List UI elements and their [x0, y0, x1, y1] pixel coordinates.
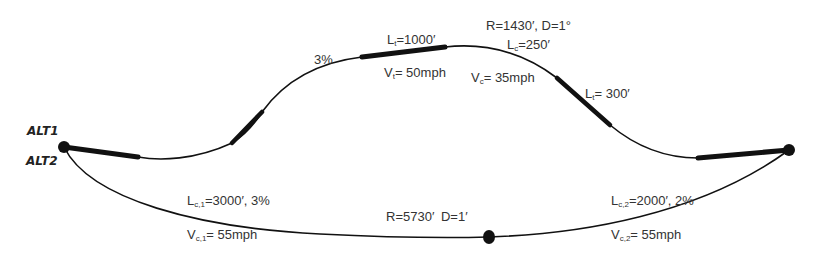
alt1-path: [64, 46, 789, 159]
alt2-curve1-length-label: Lc,1=3000′, 3%: [187, 194, 270, 209]
alt2-curve2-length-label: Lc,2=2000′, 2%: [611, 194, 694, 209]
alt1-tangent-2: [232, 112, 262, 143]
alt1-tangent-5: [698, 150, 789, 158]
alt1-grade-label: 3%: [314, 53, 333, 66]
alt2-curve1-speed-label: Vc,1= 55mph: [187, 228, 257, 243]
alt2-curve2-speed-label: Vc,2= 55mph: [611, 228, 681, 243]
alt2-mid-node: [483, 230, 495, 244]
alt1-curve-params-label: R=1430′, D=1°: [486, 19, 571, 32]
alt1-curve-length-label: Lc=250′: [507, 38, 550, 53]
alt1-label: ALT1: [27, 124, 58, 138]
end-node: [783, 144, 795, 156]
alt1-curve-speed-label: Vc= 35mph: [471, 71, 535, 86]
alt2-label: ALT2: [26, 154, 57, 168]
alt1-tangent-1: [64, 147, 138, 157]
alt1-tangent-length-label: Lt=1000′: [387, 33, 435, 48]
alt2-curve-params-label: R=5730′ D=1′: [386, 210, 468, 223]
alt1-tangent-3: [362, 47, 445, 57]
alt1-tangent2-length-label: Lt= 300′: [585, 87, 630, 102]
start-node: [58, 141, 70, 153]
alt1-tangent-speed-label: Vt= 50mph: [384, 66, 446, 81]
